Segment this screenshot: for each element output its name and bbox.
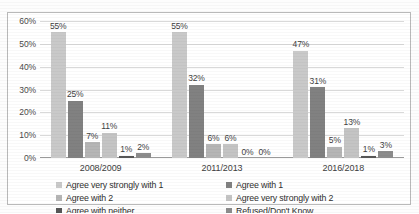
bar-value-label: 2%: [137, 142, 149, 152]
bar[interactable]: [119, 156, 134, 158]
legend-item[interactable]: Agree with neither: [56, 204, 226, 213]
bar[interactable]: [206, 144, 221, 158]
bar-value-label: 47%: [293, 39, 309, 49]
y-axis-tick-label: 60%: [19, 16, 36, 26]
bar-value-label: 55%: [171, 21, 187, 31]
legend-item[interactable]: Agree with 2: [56, 191, 226, 204]
bar-value-label: 1%: [120, 144, 132, 154]
legend-swatch-icon: [226, 195, 232, 201]
bar-slot: 31%: [310, 21, 326, 158]
bar-slot: 11%: [101, 21, 117, 158]
bar-slot: 2%: [135, 21, 151, 158]
y-axis-tick-label: 40%: [19, 62, 36, 72]
x-axis-category-label: 2011/2013: [161, 163, 282, 173]
bar-group-bars: 55%32%6%6%0%0%: [161, 21, 282, 158]
legend-swatch-icon: [226, 208, 232, 214]
bar-slot: 7%: [84, 21, 100, 158]
bar-value-label: 25%: [67, 89, 83, 99]
bar-value-label: 31%: [310, 76, 326, 86]
bar[interactable]: [136, 153, 151, 158]
y-axis-tick-label: 10%: [19, 130, 36, 140]
bar-value-label: 1%: [363, 144, 375, 154]
bar-slot: 6%: [205, 21, 221, 158]
bar-group: 55%25%7%11%1%2%2008/2009: [40, 21, 161, 158]
legend-item[interactable]: Agree very strongly with 2: [226, 191, 401, 204]
legend-swatch-icon: [56, 195, 62, 201]
bar-slot: 13%: [344, 21, 360, 158]
bar-value-label: 3%: [380, 140, 392, 150]
legend-swatch-icon: [56, 208, 62, 214]
bar-slot: 55%: [171, 21, 187, 158]
bar-value-label: 5%: [329, 135, 341, 145]
bar[interactable]: [344, 128, 359, 158]
y-axis-tick-label: 20%: [19, 107, 36, 117]
bar-group-bars: 55%25%7%11%1%2%: [40, 21, 161, 158]
bar[interactable]: [51, 32, 66, 158]
x-axis-category-label: 2008/2009: [40, 163, 161, 173]
legend-item-label: Agree with 2: [66, 193, 113, 203]
legend-item-label: Agree very strongly with 2: [236, 193, 333, 203]
y-axis-tick-label: 30%: [19, 85, 36, 95]
bar[interactable]: [223, 144, 238, 158]
bar[interactable]: [172, 32, 187, 158]
x-axis-category-label: 2016/2018: [283, 163, 404, 173]
bar-slot: 3%: [378, 21, 394, 158]
legend-item-label: Agree with 1: [236, 180, 283, 190]
bar[interactable]: [327, 147, 342, 158]
legend-item[interactable]: Agree with 1: [226, 178, 401, 191]
plot-area: 0%10%20%30%40%50%60%55%25%7%11%1%2%2008/…: [40, 21, 404, 158]
bar-value-label: 6%: [208, 133, 220, 143]
bar[interactable]: [102, 133, 117, 158]
bar-value-label: 13%: [344, 117, 360, 127]
legend-item-label: Agree very strongly with 1: [66, 180, 163, 190]
bar[interactable]: [85, 142, 100, 158]
bar-value-label: 6%: [225, 133, 237, 143]
y-axis-tick-label: 0%: [24, 153, 36, 163]
bar[interactable]: [310, 87, 325, 158]
bar[interactable]: [361, 156, 376, 158]
legend-item[interactable]: Refused/Don't Know: [226, 204, 401, 213]
bar[interactable]: [293, 51, 308, 158]
bar-slot: 0%: [256, 21, 272, 158]
chart-screenshot: 0%10%20%30%40%50%60%55%25%7%11%1%2%2008/…: [0, 0, 419, 213]
legend-swatch-icon: [56, 182, 62, 188]
bar-value-label: 0%: [242, 147, 254, 157]
legend-item-label: Refused/Don't Know: [236, 206, 313, 214]
bar[interactable]: [378, 151, 393, 158]
chart-legend: Agree very strongly with 1Agree with 1Ag…: [56, 178, 401, 213]
bar-slot: 55%: [50, 21, 66, 158]
legend-item[interactable]: Agree very strongly with 1: [56, 178, 226, 191]
bar-group: 55%32%6%6%0%0%2011/2013: [161, 21, 282, 158]
bar[interactable]: [189, 85, 204, 158]
bar-value-label: 11%: [101, 121, 117, 131]
bar-slot: 0%: [239, 21, 255, 158]
bar-value-label: 0%: [259, 147, 271, 157]
bar-slot: 32%: [188, 21, 204, 158]
bar-group: 47%31%5%13%1%3%2016/2018: [283, 21, 404, 158]
bar-slot: 6%: [222, 21, 238, 158]
bar[interactable]: [68, 101, 83, 158]
bar-value-label: 7%: [86, 131, 98, 141]
bar-group-bars: 47%31%5%13%1%3%: [283, 21, 404, 158]
legend-item-label: Agree with neither: [66, 206, 134, 214]
bar-slot: 25%: [67, 21, 83, 158]
bar-slot: 1%: [361, 21, 377, 158]
chart-frame: 0%10%20%30%40%50%60%55%25%7%11%1%2%2008/…: [7, 12, 411, 205]
bar-slot: 1%: [118, 21, 134, 158]
legend-swatch-icon: [226, 182, 232, 188]
y-axis-tick-label: 50%: [19, 39, 36, 49]
bar-value-label: 55%: [50, 21, 66, 31]
bar-slot: 47%: [293, 21, 309, 158]
bar-value-label: 32%: [188, 73, 204, 83]
bar-slot: 5%: [327, 21, 343, 158]
